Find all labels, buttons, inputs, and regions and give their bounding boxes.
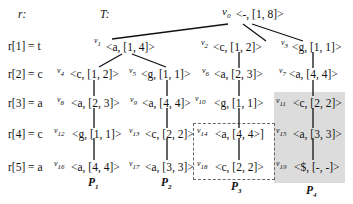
row-label-3: r[3] = a [8,97,43,110]
node-v1: <a, [1, 4]> [106,41,155,54]
t-header: T: [100,8,110,21]
node-v16: <a, [4, 4]> [71,161,120,174]
node-v6: <a, [2, 3]> [214,68,263,81]
node-id-v8: v8 [57,95,64,108]
node-v9: <a, [4, 4]> [142,97,191,110]
path-label-p2: P2 [161,176,172,194]
node-v7: <a, [4, 4]> [289,68,338,81]
node-id-v19: v19 [276,159,287,172]
node-v5: <g, [1, 1]> [141,68,190,81]
node-v19: <$, [-, -]> [294,161,340,174]
node-v10: <g, [1, 1]> [214,97,263,110]
node-id-v7: v7 [279,66,286,79]
node-id-v10: v10 [195,94,206,107]
node-id-v9: v9 [130,95,137,108]
node-v17: <a, [3, 3]> [145,161,194,174]
row-label-2: r[2] = c [8,68,43,81]
node-id-v12: v12 [54,126,65,139]
node-v8: <a, [2, 3]> [71,97,120,110]
node-id-v17: v17 [129,159,140,172]
node-id-v2: v2 [201,38,208,51]
node-v4: <c, [1, 2]> [70,68,119,81]
row-label-5: r[5] = a [8,161,43,174]
node-v0: <-, [1, 8]> [236,8,283,21]
node-id-v16: v16 [54,159,65,172]
node-v12: <g, [1, 1]> [72,128,121,141]
r-header: r: [18,8,26,21]
node-id-v18: v18 [197,159,208,172]
node-id-v4: v4 [57,66,64,79]
row-label-4: r[4] = c [8,128,43,141]
node-v18: <c, [2, 2]> [215,161,264,174]
node-v13: <c, [2, 2]> [145,128,194,141]
node-id-v6: v6 [202,66,209,79]
node-id-v0: v0 [222,6,230,21]
node-id-v14: v14 [197,126,208,139]
node-id-v11: v11 [276,96,286,109]
node-id-v5: v5 [129,66,136,79]
node-id-v3: v3 [281,38,288,51]
node-v15: <a, [3, 3]> [293,128,342,141]
node-id-v1: v1 [94,36,101,49]
row-label-1: r[1] = t [8,40,41,53]
node-v14: <a, [4, 4>] [215,128,264,141]
node-id-v13: v13 [129,126,140,139]
node-v3: <g, [1, 1]> [292,41,341,54]
path-label-p4: P4 [306,184,317,202]
node-v11: <c, [2, 2]> [293,97,342,110]
node-v2: <c, [1, 2]> [213,41,262,54]
node-id-v15: v15 [276,126,287,139]
path-label-p3: P3 [231,180,242,198]
path-label-p1: P1 [88,176,99,194]
